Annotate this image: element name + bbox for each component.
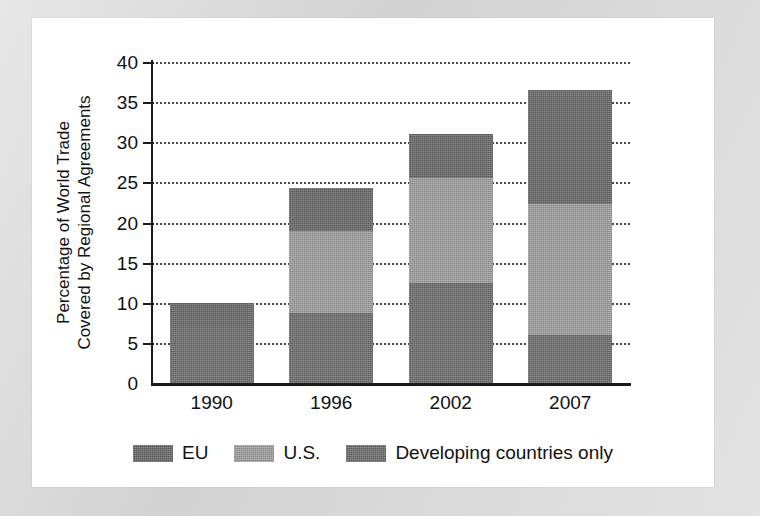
bar-group[interactable] [409, 62, 493, 383]
y-axis-tick [143, 142, 154, 144]
y-axis-tick [143, 343, 154, 345]
bar-segment-dev[interactable] [528, 335, 612, 383]
y-axis-tick-label: 25 [117, 173, 138, 192]
bar-group[interactable] [289, 62, 373, 383]
y-axis-tick [143, 62, 154, 64]
bar-segment-dev[interactable] [170, 327, 254, 383]
bar-segment-us[interactable] [528, 204, 612, 335]
chart-figure-panel: Percentage of World Trade Covered by Reg… [32, 18, 714, 487]
bar-segment-eu[interactable] [170, 303, 254, 327]
bar-segment-dev[interactable] [409, 283, 493, 383]
x-axis-line [151, 383, 631, 386]
legend-label-us: U.S. [283, 442, 320, 464]
y-axis-tick [143, 102, 154, 104]
y-axis-tick-label: 30 [117, 133, 138, 152]
legend-item-eu[interactable]: EU [133, 442, 208, 464]
bar-segment-dev[interactable] [289, 313, 373, 383]
y-axis-tick [143, 263, 154, 265]
chart-legend: EUU.S.Developing countries only [32, 442, 714, 464]
bar-segment-eu[interactable] [289, 188, 373, 231]
legend-swatch-dev [346, 445, 386, 462]
x-axis-tick-label: 2002 [430, 392, 472, 414]
legend-swatch-us [234, 445, 274, 462]
y-axis-title: Percentage of World Trade Covered by Reg… [46, 62, 102, 383]
legend-label-dev: Developing countries only [395, 442, 613, 464]
bar-segment-eu[interactable] [409, 134, 493, 178]
y-axis-tick [143, 182, 154, 184]
bar-group[interactable] [170, 62, 254, 383]
legend-swatch-eu [133, 445, 173, 462]
y-axis-tick-label: 35 [117, 93, 138, 112]
x-axis-tick-label: 2007 [549, 392, 591, 414]
bar-group[interactable] [528, 62, 612, 383]
legend-label-eu: EU [182, 442, 208, 464]
bar-segment-us[interactable] [289, 231, 373, 314]
y-axis-title-line-1: Percentage of World Trade [53, 121, 74, 324]
y-axis-tick [143, 303, 154, 305]
y-axis-tick [143, 223, 154, 225]
y-axis-tick-label: 0 [127, 374, 138, 393]
y-axis-tick-label: 10 [117, 293, 138, 312]
bar-segment-eu[interactable] [528, 90, 612, 204]
y-axis-tick-label: 15 [117, 253, 138, 272]
y-axis-tick-label: 20 [117, 213, 138, 232]
x-axis-tick-label: 1996 [310, 392, 352, 414]
y-axis-tick-label: 40 [117, 53, 138, 72]
legend-item-us[interactable]: U.S. [234, 442, 320, 464]
x-axis-tick-label: 1990 [191, 392, 233, 414]
bar-segment-us[interactable] [409, 178, 493, 282]
y-axis-tick-label: 5 [127, 333, 138, 352]
y-axis-title-line-2: Covered by Regional Agreements [74, 95, 95, 349]
plot-area: 4035302520151050 [152, 62, 630, 383]
legend-item-dev[interactable]: Developing countries only [346, 442, 613, 464]
